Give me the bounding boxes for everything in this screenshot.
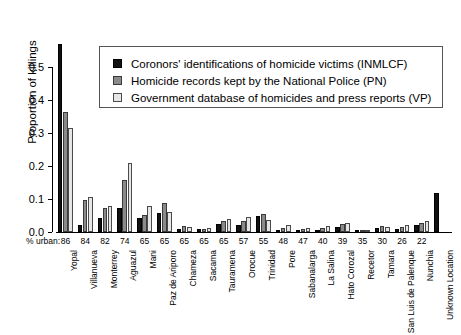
y-axis-spine: [52, 67, 53, 232]
bar-vp: [68, 128, 73, 232]
category-label: Aguazul: [128, 250, 138, 281]
legend-item-pn: Homicide records kept by the National Po…: [113, 72, 442, 89]
legend: Coronors' identifications of homicide vi…: [99, 46, 443, 108]
bar-group: [78, 0, 93, 232]
y-axis-tick-label: 0.1: [14, 193, 44, 205]
legend-label-vp: Government database of homicides and pre…: [131, 92, 431, 104]
bar-pn: [419, 223, 424, 232]
category-label: Orocue: [247, 250, 257, 278]
bar-inmlcf: [58, 44, 63, 232]
bar-inmlcf: [256, 216, 261, 232]
category-label: San Luis de Palenque: [406, 250, 416, 333]
bar-group: [335, 0, 350, 232]
category-label: Tauramena: [227, 250, 237, 293]
bar-group: [434, 0, 449, 232]
bar-group: [117, 0, 132, 232]
bar-pn: [122, 180, 127, 232]
category-label: Paz de Ariporo: [168, 250, 178, 306]
bar-inmlcf: [157, 213, 162, 232]
bar-pn: [162, 203, 167, 232]
percent-urban-row: % urban: 8684827465656565655755484740393…: [0, 236, 461, 248]
bar-vp: [246, 217, 251, 233]
bar-inmlcf: [78, 225, 83, 232]
bar-pn: [221, 221, 226, 232]
bar-pn: [340, 224, 345, 232]
bar-group: [395, 0, 410, 232]
category-label: Nunchia: [425, 250, 435, 281]
gray-square-swatch-icon: [113, 76, 122, 85]
category-label: Unknown Location: [445, 250, 455, 320]
bar-group: [58, 0, 73, 232]
category-label: Recetor: [366, 250, 376, 280]
bar-vp: [286, 225, 291, 232]
bar-group: [276, 0, 291, 232]
category-label: Yopal: [69, 250, 79, 271]
bar-pn: [241, 221, 246, 232]
category-label: Hato Corozal: [346, 250, 356, 300]
category-label: Sacama: [208, 250, 218, 281]
category-label: Tamara: [386, 250, 396, 278]
bar-group: [315, 0, 330, 232]
bar-pn: [63, 112, 68, 232]
bar-group: [137, 0, 152, 232]
bar-vp: [88, 197, 93, 232]
bar-vp: [108, 206, 113, 232]
bar-inmlcf: [236, 225, 241, 232]
bar-vp: [147, 206, 152, 232]
y-axis-tick: [48, 199, 52, 200]
percent-urban-value: 22: [410, 236, 434, 246]
category-label: Trinidad: [267, 250, 277, 280]
category-label: Sabanalarga: [307, 250, 317, 298]
y-axis-tick: [48, 133, 52, 134]
bar-inmlcf: [137, 218, 142, 232]
bar-group: [375, 0, 390, 232]
bar-inmlcf: [117, 208, 122, 232]
bar-group: [256, 0, 271, 232]
category-label: Mani: [148, 250, 158, 268]
bar-inmlcf: [98, 218, 103, 232]
y-axis-tick: [48, 67, 52, 68]
bar-group: [197, 0, 212, 232]
bar-groups: [56, 0, 452, 232]
y-axis-tick: [48, 232, 52, 233]
bar-inmlcf: [434, 193, 439, 232]
black-square-swatch-icon: [113, 59, 122, 68]
category-label: Monterrey: [109, 250, 119, 288]
bar-group: [216, 0, 231, 232]
bar-pn: [261, 214, 266, 232]
category-label: Chameza: [188, 250, 198, 286]
bar-vp: [405, 225, 410, 232]
bar-group: [296, 0, 311, 232]
y-axis-tick: [48, 166, 52, 167]
bar-group: [177, 0, 192, 232]
bar-vp: [167, 212, 172, 232]
legend-label-inmlcf: Coronors' identifications of homicide vi…: [131, 58, 407, 70]
bar-pn: [83, 200, 88, 232]
x-axis-line: [56, 232, 452, 233]
category-label: Pore: [287, 250, 297, 268]
y-axis-tick-label: 0.2: [14, 160, 44, 172]
y-axis-title: Proportion of killings: [26, 12, 38, 172]
bar-vp: [227, 219, 232, 232]
legend-label-pn: Homicide records kept by the National Po…: [131, 75, 387, 87]
bar-group: [98, 0, 113, 232]
chart-canvas: Proportion of killings 0.00.10.20.30.40.…: [0, 0, 461, 335]
category-label: La Salina: [326, 250, 336, 285]
bar-pn: [103, 208, 108, 232]
bar-group: [414, 0, 429, 232]
category-label: Villanueva: [89, 250, 99, 289]
x-axis-category-labels: YopalVillanuevaMonterreyAguazulManiPaz d…: [0, 250, 461, 335]
bar-inmlcf: [414, 225, 419, 232]
y-axis-tick-label: 0.3: [14, 127, 44, 139]
bar-group: [236, 0, 251, 232]
legend-item-vp: Government database of homicides and pre…: [113, 89, 442, 106]
y-axis-tick-label: 0.4: [14, 94, 44, 106]
bar-vp: [345, 223, 350, 232]
bar-group: [157, 0, 172, 232]
bar-group: [355, 0, 370, 232]
legend-item-inmlcf: Coronors' identifications of homicide vi…: [113, 55, 442, 72]
bar-inmlcf: [216, 224, 221, 232]
y-axis-tick-label: 0.5: [14, 61, 44, 73]
light-square-swatch-icon: [113, 93, 122, 102]
bar-vp: [128, 163, 133, 232]
